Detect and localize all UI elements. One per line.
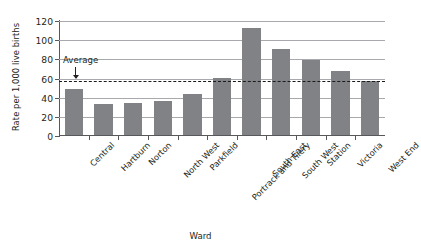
x-tick-label: Hartburn [119,140,152,173]
x-tick-mark [148,136,149,140]
y-tick-mark [55,40,59,41]
x-tick-label: Norton [146,140,173,167]
y-tick-mark [55,79,59,80]
bar [94,104,112,135]
average-reference-line [59,81,385,82]
bar [183,94,201,135]
y-tick-label: 120 [35,16,53,27]
y-axis-title: Rate per 1,000 live births [11,7,21,147]
y-tick-label: 40 [41,92,53,103]
y-tick-label: 0 [47,131,53,142]
x-tick-mark [326,136,327,140]
x-tick-mark [355,136,356,140]
gridline [59,40,385,41]
bar [154,101,172,136]
bar [272,49,290,135]
x-tick-label: Victoria [355,140,384,169]
gridline [59,59,385,60]
x-axis-title: Ward [0,231,401,241]
y-tick-label: 80 [41,54,53,65]
average-label: Average [63,55,98,65]
bar [213,78,231,136]
x-tick-mark [178,136,179,140]
bar [302,60,320,135]
x-tick-mark [118,136,119,140]
x-tick-mark [237,136,238,140]
y-tick-mark [55,117,59,118]
bar [65,89,83,135]
y-tick-mark [55,21,59,22]
bar [361,81,379,135]
x-tick-label: Central [88,140,116,168]
plot-area: 020406080100120 Average [59,21,385,136]
bar [124,103,142,135]
y-tick-label: 60 [41,73,53,84]
y-tick-mark [55,59,59,60]
x-axis-line [59,135,385,136]
gridline [59,21,385,22]
y-tick-mark [55,136,59,137]
x-tick-label: West End [387,140,421,175]
x-tick-mark [207,136,208,140]
x-tick-mark [296,136,297,140]
y-tick-label: 100 [35,35,53,46]
x-tick-mark [89,136,90,140]
y-tick-label: 20 [41,111,53,122]
y-tick-mark [55,98,59,99]
x-tick-mark [266,136,267,140]
